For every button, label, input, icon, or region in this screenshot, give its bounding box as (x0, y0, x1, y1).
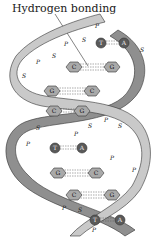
base-letter: C (52, 107, 57, 114)
svg-text:P: P (73, 130, 79, 137)
base-letter: A (117, 216, 123, 223)
base-letter: C (72, 63, 77, 70)
svg-text:P: P (91, 226, 97, 233)
svg-text:S: S (118, 122, 122, 129)
svg-text:S: S (82, 36, 86, 43)
base-letter: G (50, 87, 55, 94)
base-letter: G (110, 63, 115, 70)
base-letter: C (72, 191, 77, 198)
svg-text:P: P (35, 58, 41, 65)
base-pair-5: T A (50, 143, 87, 153)
base-letter: G (80, 107, 85, 114)
svg-text:P: P (109, 154, 115, 161)
base-letter: T (99, 39, 103, 46)
svg-text:P: P (25, 140, 31, 147)
svg-text:S: S (36, 124, 40, 131)
base-letter: G (56, 169, 61, 176)
dna-double-helix-diagram: T A C G G C C G T A G C C G T (0, 0, 161, 239)
svg-text:S: S (88, 122, 92, 129)
svg-text:P: P (63, 40, 69, 47)
svg-text:S: S (52, 52, 56, 59)
svg-text:P: P (103, 116, 109, 123)
base-letter: C (94, 169, 99, 176)
svg-text:P: P (131, 166, 137, 173)
base-letter: T (53, 144, 57, 151)
svg-text:S: S (78, 206, 82, 213)
svg-text:S: S (22, 72, 26, 79)
base-letter: G (110, 191, 115, 198)
base-letter: A (121, 39, 127, 46)
base-letter: A (79, 144, 85, 151)
svg-text:S: S (140, 46, 144, 53)
base-letter: C (90, 87, 95, 94)
base-pair-1: T A (96, 38, 129, 48)
base-letter: T (93, 216, 97, 223)
